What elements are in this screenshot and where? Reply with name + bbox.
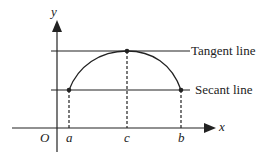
- x-axis-label: x: [218, 119, 225, 134]
- point-b-label: b: [178, 130, 185, 145]
- function-curve: [69, 51, 181, 90]
- y-axis-label: y: [49, 4, 57, 19]
- mean-value-theorem-diagram: y x O a c b Tangent line Secant line: [0, 0, 267, 159]
- point-c-label: c: [124, 130, 130, 145]
- tangent-line-label: Tangent line: [191, 43, 256, 58]
- x-axis-arrow-icon: [204, 123, 216, 133]
- point-c: [125, 49, 130, 54]
- origin-label: O: [40, 130, 50, 145]
- point-b: [179, 88, 184, 93]
- point-a-label: a: [66, 130, 73, 145]
- point-a: [67, 88, 72, 93]
- diagram-svg: y x O a c b Tangent line Secant line: [0, 0, 267, 159]
- y-axis-arrow-icon: [52, 20, 62, 32]
- secant-line-label: Secant line: [195, 82, 253, 97]
